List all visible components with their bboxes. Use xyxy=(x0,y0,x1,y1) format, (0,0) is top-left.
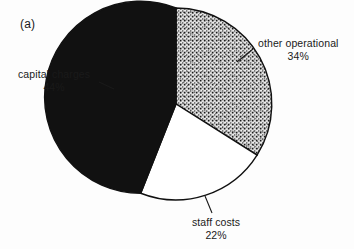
slice-label-other-operational: other operational 34% xyxy=(258,37,339,62)
slice-label-other-operational-value: 34% xyxy=(258,50,339,63)
slice-label-capital-charges-value: 44% xyxy=(18,81,90,94)
slice-label-staff-costs-value: 22% xyxy=(192,229,240,242)
panel-label: (a) xyxy=(20,17,35,31)
slice-label-staff-costs: staff costs 22% xyxy=(192,216,240,241)
slice-label-capital-charges: capital charges 44% xyxy=(18,68,90,93)
slice-label-staff-costs-name: staff costs xyxy=(192,216,240,228)
leader-line-staff-costs xyxy=(205,196,212,213)
slice-label-other-operational-name: other operational xyxy=(258,37,339,49)
pie-chart-figure: (a) other operational 34% capital charge… xyxy=(0,0,354,249)
slice-label-capital-charges-name: capital charges xyxy=(18,68,90,80)
